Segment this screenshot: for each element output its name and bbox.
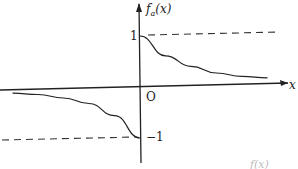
curve-right-branch xyxy=(140,36,268,78)
ytick-label-1: 1 xyxy=(130,29,138,43)
curve-left-branch xyxy=(13,93,141,138)
y-axis xyxy=(139,4,141,163)
y-axis-label: fa(x) xyxy=(145,2,172,18)
x-axis xyxy=(0,83,288,90)
ytick-label-neg1: −1 xyxy=(146,130,164,144)
asymptote-lower xyxy=(2,137,136,140)
asymptote-upper xyxy=(148,32,280,35)
x-axis-arrow xyxy=(280,80,288,86)
y-axis-arrow xyxy=(136,3,142,12)
caption-fragment: f(x) xyxy=(249,158,269,169)
origin-label: O xyxy=(146,90,156,104)
x-axis-label: x xyxy=(289,78,296,92)
function-plot: fa(x) x O 1 −1 f(x) xyxy=(0,0,298,169)
